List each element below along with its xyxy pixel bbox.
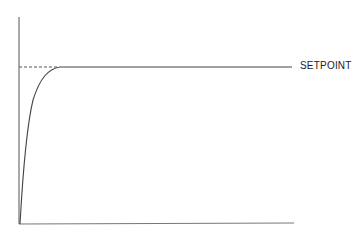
setpoint-label: SETPOINT <box>300 60 352 71</box>
response-curve <box>20 67 292 224</box>
chart-canvas <box>0 0 363 238</box>
x-axis <box>19 223 294 224</box>
